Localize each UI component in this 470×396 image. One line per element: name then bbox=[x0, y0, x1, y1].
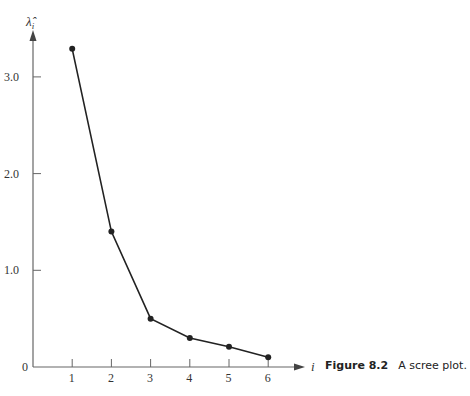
y-tick-label: 0 bbox=[22, 360, 28, 374]
x-ticks: 123456 bbox=[69, 359, 271, 385]
y-tick-label: 1.0 bbox=[4, 263, 19, 277]
data-point bbox=[108, 229, 114, 235]
figure-label: Figure 8.2 bbox=[325, 359, 388, 372]
data-point bbox=[148, 316, 154, 322]
x-tick-label: 1 bbox=[69, 371, 75, 385]
x-tick-label: 6 bbox=[265, 371, 271, 385]
series-line bbox=[72, 49, 268, 357]
figure-caption: Figure 8.2A scree plot. bbox=[325, 359, 467, 372]
y-ticks: 01.02.03.0 bbox=[4, 70, 41, 374]
x-tick-label: 4 bbox=[186, 371, 192, 385]
y-tick-label: 3.0 bbox=[4, 70, 19, 84]
x-tick-label: 3 bbox=[147, 371, 153, 385]
data-point bbox=[265, 354, 271, 360]
x-tick-label: 5 bbox=[226, 371, 232, 385]
data-point bbox=[187, 335, 193, 341]
data-point bbox=[69, 46, 75, 52]
x-axis-label: i bbox=[311, 359, 315, 374]
data-markers bbox=[69, 46, 271, 360]
x-tick-label: 2 bbox=[108, 371, 114, 385]
y-axis-arrow-icon bbox=[30, 30, 37, 41]
scree-plot: 01.02.03.0 123456 λ̂i i bbox=[0, 0, 470, 396]
x-axis-arrow-icon bbox=[294, 364, 305, 371]
y-axis-label: λ̂i bbox=[25, 14, 37, 31]
data-point bbox=[226, 344, 232, 350]
caption-text: A scree plot. bbox=[398, 359, 467, 372]
y-tick-label: 2.0 bbox=[4, 167, 19, 181]
